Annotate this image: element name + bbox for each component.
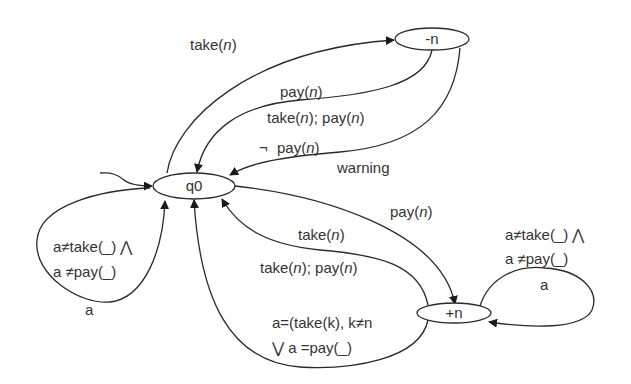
label-plus-n-loop-line2: a ≠pay(_) bbox=[505, 250, 568, 267]
label-plus-n-to-q0-other-line2: ⋁ a =pay(_) bbox=[271, 339, 352, 356]
label-minus-n-to-q0-take-pay: take(n); pay(n) bbox=[267, 109, 365, 126]
label-q0-loop-line1: a≠take(_) ⋀ bbox=[53, 238, 133, 255]
label-plus-n-to-q0-take-pay: take(n); pay(n) bbox=[260, 259, 358, 276]
label-plus-n-loop-line1: a≠take(_) ⋀ bbox=[505, 226, 585, 243]
label-q0-loop-action: a bbox=[85, 301, 94, 318]
state-plus-n: +n bbox=[417, 303, 491, 323]
initial-state-arrow bbox=[100, 173, 152, 186]
state-minus-n-label: -n bbox=[425, 30, 438, 47]
state-plus-n-label: +n bbox=[445, 304, 462, 321]
label-negation-symbol: ¬ bbox=[259, 139, 268, 156]
label-warning-guard: pay(n) bbox=[277, 139, 320, 156]
state-q0-label: q0 bbox=[186, 177, 203, 194]
label-plus-n-to-q0-other-line1: a=(take(k), k≠n bbox=[272, 314, 372, 331]
label-minus-n-to-q0-pay: pay(n) bbox=[280, 83, 323, 100]
label-warning-output: warning bbox=[336, 159, 390, 176]
label-q0-loop-line2: a ≠pay(_) bbox=[53, 263, 116, 280]
edge-plus-n-self-loop bbox=[480, 267, 594, 326]
label-q0-to-minus-n: take(n) bbox=[190, 36, 237, 53]
state-minus-n: -n bbox=[395, 28, 469, 50]
state-machine-diagram: q0 -n +n take(n) pay(n) take(n); pay(n) … bbox=[0, 0, 631, 384]
state-q0: q0 bbox=[153, 173, 235, 199]
label-plus-n-loop-action: a bbox=[540, 276, 549, 293]
label-q0-to-plus-n: pay(n) bbox=[390, 203, 433, 220]
label-plus-n-to-q0-take: take(n) bbox=[298, 226, 345, 243]
